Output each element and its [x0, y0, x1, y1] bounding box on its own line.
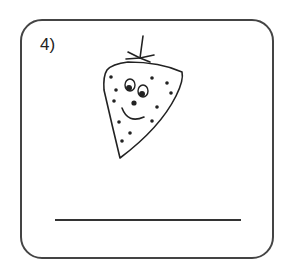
strawberry-icon: [0, 0, 288, 271]
answer-line[interactable]: [55, 219, 241, 221]
